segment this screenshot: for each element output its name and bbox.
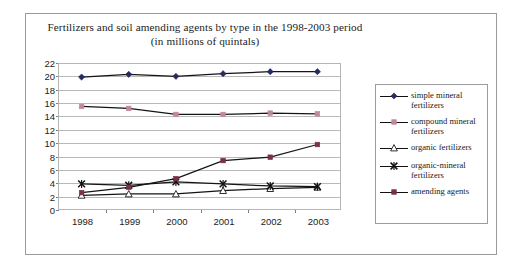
legend-item[interactable]: organic-mineral fertilizers bbox=[376, 160, 487, 180]
x-axis-label: 2001 bbox=[214, 216, 235, 227]
x-axis-label: 2003 bbox=[308, 216, 329, 227]
y-axis-label: 4 bbox=[50, 178, 55, 189]
series-1 bbox=[78, 69, 320, 81]
legend-marker-diamond-icon bbox=[380, 91, 408, 102]
y-axis-label: 8 bbox=[50, 151, 55, 162]
legend-item-label: organic-mineral fertilizers bbox=[408, 160, 487, 180]
chart-title: Fertilizers and soil amending agents by … bbox=[25, 20, 385, 48]
legend-item-label: organic fertilizers bbox=[408, 142, 472, 152]
y-axis-label: 12 bbox=[44, 124, 55, 135]
data-point-square bbox=[268, 155, 273, 160]
data-point-diamond bbox=[314, 69, 320, 75]
y-axis-label: 18 bbox=[44, 84, 55, 95]
data-point-square bbox=[392, 190, 397, 195]
data-point-square bbox=[126, 106, 131, 111]
data-point-square bbox=[174, 176, 179, 181]
series-2 bbox=[79, 104, 319, 117]
legend-marker-cross-icon bbox=[380, 161, 408, 172]
series-line bbox=[82, 72, 318, 77]
data-point-triangle-open bbox=[391, 145, 398, 151]
y-axis-label: 20 bbox=[44, 71, 55, 82]
legend-marker-square-icon bbox=[380, 187, 408, 198]
y-axis-label: 16 bbox=[44, 98, 55, 109]
legend-marker-triangle-open-icon bbox=[380, 143, 408, 154]
y-axis-label: 22 bbox=[44, 58, 55, 69]
y-axis-label: 2 bbox=[50, 191, 55, 202]
y-axis-label: 0 bbox=[50, 205, 55, 216]
legend-item-label: compound mineral fertilizers bbox=[408, 116, 487, 136]
legend-item[interactable]: compound mineral fertilizers bbox=[376, 116, 487, 136]
series-5 bbox=[79, 142, 319, 195]
data-point-diamond bbox=[173, 73, 179, 79]
y-axis-tick bbox=[56, 210, 59, 211]
legend-item[interactable]: organic fertilizers bbox=[376, 142, 487, 154]
x-axis-label: 2000 bbox=[166, 216, 187, 227]
chart-title-line2: (in millions of quintals) bbox=[25, 34, 385, 48]
data-point-square bbox=[221, 112, 226, 117]
data-point-diamond bbox=[78, 74, 84, 80]
data-point-diamond bbox=[391, 93, 397, 99]
chart-title-line1: Fertilizers and soil amending agents by … bbox=[47, 21, 362, 33]
legend-marker-square-icon bbox=[380, 117, 408, 128]
x-axis-label: 2002 bbox=[261, 216, 282, 227]
plot-wrapper: 0246810121416182022199819992000200120022… bbox=[30, 58, 370, 230]
legend-item-label: amending agents bbox=[408, 186, 469, 196]
x-axis-label: 1999 bbox=[119, 216, 140, 227]
chart-legend: simple mineral fertilizerscompound miner… bbox=[375, 84, 488, 224]
data-point-diamond bbox=[220, 71, 226, 77]
y-axis-label: 6 bbox=[50, 164, 55, 175]
series-line bbox=[82, 106, 318, 114]
data-point-square bbox=[268, 111, 273, 116]
y-axis-label: 10 bbox=[44, 138, 55, 149]
y-axis-label: 14 bbox=[44, 111, 55, 122]
legend-item[interactable]: amending agents bbox=[376, 186, 487, 198]
data-point-square bbox=[126, 185, 131, 190]
data-point-diamond bbox=[267, 69, 273, 75]
x-axis-label: 1998 bbox=[72, 216, 93, 227]
data-point-square bbox=[174, 112, 179, 117]
data-point-square bbox=[79, 190, 84, 195]
data-point-square bbox=[221, 158, 226, 163]
legend-item-label: simple mineral fertilizers bbox=[408, 90, 487, 110]
legend-item[interactable]: simple mineral fertilizers bbox=[376, 90, 487, 110]
data-point-square bbox=[79, 104, 84, 109]
series-layer bbox=[58, 63, 341, 210]
data-point-cross bbox=[391, 162, 398, 170]
data-point-square bbox=[315, 142, 320, 147]
data-point-square bbox=[392, 120, 397, 125]
series-line bbox=[82, 182, 318, 187]
data-point-square bbox=[315, 111, 320, 116]
data-point-diamond bbox=[126, 71, 132, 77]
